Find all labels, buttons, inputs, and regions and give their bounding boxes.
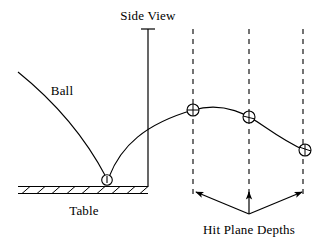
side-view-divider	[141, 29, 155, 187]
side-view-diagram: Side View Ball Table Hit Plane Depths	[0, 0, 323, 249]
outgoing-path	[109, 107, 306, 177]
hit-plane-ball-2	[243, 111, 255, 123]
hit-plane-arrows	[196, 192, 302, 214]
hit-plane-arrow-right	[249, 192, 302, 214]
table-hatching	[22, 187, 148, 194]
table-surface	[18, 187, 148, 194]
diagram-canvas	[0, 0, 323, 249]
hit-plane-depths-label: Hit Plane Depths	[203, 222, 295, 238]
bounce-ball-marker	[102, 175, 113, 186]
hit-plane-arrow-left	[196, 192, 249, 214]
side-view-label: Side View	[120, 8, 175, 24]
hit-plane-ball-1	[187, 104, 199, 116]
ball-label: Ball	[51, 83, 73, 99]
table-label: Table	[69, 203, 99, 219]
hit-plane-ball-3	[299, 144, 311, 156]
